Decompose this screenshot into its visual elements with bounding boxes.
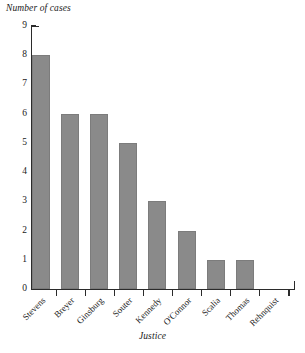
x-axis-tick-mark	[201, 290, 202, 296]
y-axis-tick-mark	[31, 25, 36, 26]
y-axis-tick-label: 7	[22, 80, 27, 90]
x-axis-tick-label-text: Kennedy	[134, 296, 163, 325]
x-axis-tick-label-text: Stevens	[21, 296, 47, 322]
y-axis-tick-label: 0	[22, 284, 27, 294]
y-axis-tick-label: 4	[22, 167, 27, 177]
bar	[90, 114, 108, 289]
x-axis-title: Justice	[0, 331, 305, 341]
bar	[148, 201, 166, 289]
x-axis-tick-mark	[85, 290, 86, 296]
x-axis-tick-mark	[143, 290, 144, 296]
y-axis-tick-label: 6	[22, 109, 27, 119]
y-axis-tick-label: 9	[22, 21, 27, 31]
x-axis-tick-mark	[172, 290, 173, 296]
y-axis-tick-label: 8	[22, 50, 27, 60]
y-axis-tick-label: 3	[22, 197, 27, 207]
y-axis-tick: 9	[31, 25, 36, 26]
x-axis-tick-mark	[114, 290, 115, 296]
y-axis-tick-label: 1	[22, 255, 27, 265]
x-axis-tick-mark	[259, 290, 260, 296]
x-axis-tick-label-text: Scalia	[200, 296, 222, 318]
x-axis-tick-label-text: Thomas	[224, 296, 251, 323]
x-axis-tick-mark	[288, 290, 289, 296]
bar	[178, 231, 196, 289]
x-axis-tick-label-text: Souter	[112, 296, 135, 319]
bar	[236, 260, 254, 289]
bar	[32, 55, 50, 289]
x-axis-tick-mark	[230, 290, 231, 296]
bar	[61, 114, 79, 289]
y-axis-tick-label: 5	[22, 138, 27, 148]
y-axis-tick-label: 2	[22, 226, 27, 236]
bar	[207, 260, 225, 289]
x-axis-tick-mark	[56, 290, 57, 296]
y-axis-title: Number of cases	[6, 3, 71, 13]
bar-chart: Number of cases 0123456789 StevensBreyer…	[0, 0, 305, 353]
bar	[119, 143, 137, 289]
x-axis-end-cap	[294, 281, 295, 290]
x-axis-line	[31, 289, 295, 290]
x-axis-tick-label-text: Breyer	[53, 296, 77, 320]
x-axis-tick-label-text: Rehnquist	[248, 296, 280, 328]
